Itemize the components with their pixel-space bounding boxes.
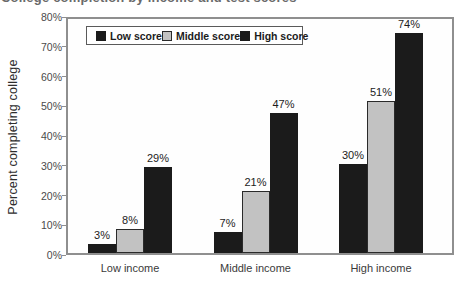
y-tick-mark xyxy=(62,255,66,256)
bar-middle-score xyxy=(242,191,270,253)
legend-label: High score xyxy=(254,30,308,42)
bar-high-score xyxy=(144,167,172,253)
y-tick-mark xyxy=(62,165,66,166)
y-tick-label: 60% xyxy=(28,71,62,83)
x-category-label: Middle income xyxy=(201,262,311,274)
y-tick-label: 0% xyxy=(28,249,62,261)
legend-swatch-middle-score xyxy=(162,31,172,41)
bar-low-score xyxy=(88,244,116,253)
y-tick-label: 70% xyxy=(28,41,62,53)
y-axis-title: Percent completing college xyxy=(6,52,22,222)
bar-value-label: 74% xyxy=(387,18,431,30)
y-tick-mark xyxy=(62,46,66,47)
legend: Low scoreMiddle scoreHigh score xyxy=(86,26,303,45)
bar-chart-figure: College completion by income and test sc… xyxy=(0,0,462,286)
x-category-label: High income xyxy=(326,262,436,274)
legend-entry: Low score xyxy=(96,30,162,42)
y-tick-mark xyxy=(62,76,66,77)
y-tick-label: 30% xyxy=(28,160,62,172)
cropped-chart-title: College completion by income and test sc… xyxy=(1,0,461,6)
y-tick-mark xyxy=(62,225,66,226)
bar-value-label: 47% xyxy=(262,98,306,110)
bar-middle-score xyxy=(116,229,144,253)
y-tick-mark xyxy=(62,136,66,137)
legend-swatch-low-score xyxy=(96,31,106,41)
legend-label: Low score xyxy=(110,30,162,42)
bar-middle-score xyxy=(367,101,395,253)
y-tick-label: 40% xyxy=(28,130,62,142)
bar-high-score xyxy=(395,33,423,253)
x-category-label: Low income xyxy=(75,262,185,274)
bar-low-score xyxy=(214,232,242,253)
y-tick-mark xyxy=(62,17,66,18)
legend-swatch-high-score xyxy=(240,31,250,41)
bar-value-label: 29% xyxy=(136,152,180,164)
y-tick-label: 50% xyxy=(28,100,62,112)
y-tick-label: 10% xyxy=(28,219,62,231)
legend-label: Middle score xyxy=(176,30,240,42)
y-tick-mark xyxy=(62,195,66,196)
bar-high-score xyxy=(270,113,298,253)
bar-low-score xyxy=(339,164,367,253)
y-tick-mark xyxy=(62,106,66,107)
legend-entry: Middle score xyxy=(162,30,240,42)
y-tick-label: 20% xyxy=(28,190,62,202)
legend-entry: High score xyxy=(240,30,308,42)
y-tick-label: 80% xyxy=(28,11,62,23)
